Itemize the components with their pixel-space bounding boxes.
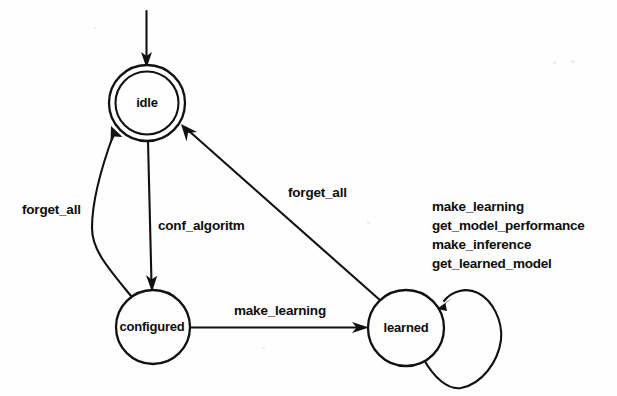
transition-idle-to-configured[interactable] (146, 141, 157, 292)
self-loop-event-3: get_learned_model (432, 256, 552, 271)
self-loop-event-2: make_inference (432, 237, 532, 252)
edge-label-forget-all-learned-idle: forget_all (288, 185, 347, 200)
self-loop-event-1: get_model_performance (432, 218, 585, 233)
state-idle[interactable]: idle (109, 65, 185, 141)
transition-idle-to-configured-line (148, 141, 152, 283)
state-idle-label: idle (136, 95, 158, 110)
state-diagram-canvas: idle configured learned forget_all conf_… (0, 0, 617, 396)
state-learned-label: learned (384, 320, 429, 335)
transition-configured-to-idle[interactable] (92, 126, 131, 296)
learned-self-loop-event-list: make_learning get_model_performance make… (432, 199, 585, 271)
transition-configured-to-learned[interactable] (190, 322, 369, 333)
transition-learned-to-idle-arrowhead (181, 124, 197, 142)
self-loop-event-0: make_learning (432, 199, 524, 214)
initial-transition (141, 11, 152, 68)
state-diagram-graphics: idle configured learned forget_all conf_… (0, 0, 617, 396)
transition-configured-to-idle-curve (92, 133, 131, 296)
transition-learned-to-idle-line (189, 131, 381, 301)
state-configured[interactable]: configured (116, 290, 190, 364)
state-learned[interactable]: learned (368, 290, 444, 366)
state-configured-label: configured (119, 319, 184, 334)
edge-label-conf-algoritm: conf_algoritm (158, 218, 245, 233)
transition-learned-to-idle[interactable] (181, 124, 381, 301)
edge-label-forget-all-configured-idle: forget_all (22, 202, 81, 217)
edge-label-make-learning: make_learning (234, 303, 326, 318)
